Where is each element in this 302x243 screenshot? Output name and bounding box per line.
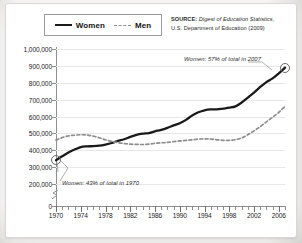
data-point-marker-1970 [51, 155, 61, 165]
y-tick-mark [52, 167, 56, 168]
y-tick-mark [52, 206, 56, 207]
y-tick-mark [52, 49, 56, 50]
y-tick-mark [52, 117, 56, 118]
annotation-women-1970: Women: 43% of total in 1970 [62, 180, 139, 186]
y-tick-mark [52, 83, 56, 84]
annotation-women-2007: Women: 57% of total in 2007 [184, 56, 261, 62]
y-tick-mark [52, 184, 56, 185]
chart-figure: Women Men SOURCE: Digest of Education St… [0, 0, 302, 243]
annotation-leaders [0, 0, 302, 243]
y-tick-mark [52, 66, 56, 67]
y-tick-mark [52, 133, 56, 134]
y-tick-mark [52, 100, 56, 101]
y-tick-mark [52, 150, 56, 151]
data-point-marker-2007 [280, 63, 290, 73]
